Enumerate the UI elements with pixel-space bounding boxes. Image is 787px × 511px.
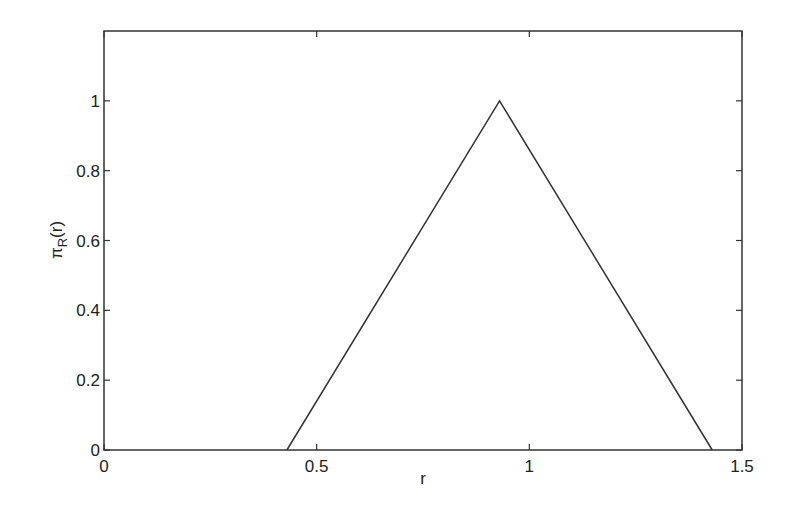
y-tick-label: 0.2 — [76, 371, 100, 390]
y-tick-label: 0.8 — [76, 162, 100, 181]
y-tick-label: 0.6 — [76, 232, 100, 251]
x-tick-label: 0 — [99, 457, 108, 476]
x-tick-label: 0.5 — [305, 457, 329, 476]
data-line — [287, 101, 712, 450]
chart: 00.20.40.60.81 00.511.5 r πR(r) — [0, 0, 787, 511]
x-axis-ticks: 00.511.5 — [99, 31, 754, 476]
x-axis-label: r — [420, 469, 426, 488]
y-axis-label: πR(r) — [47, 221, 70, 259]
y-tick-label: 1 — [91, 92, 100, 111]
y-axis-ticks: 00.20.40.60.81 — [76, 92, 742, 460]
y-tick-label: 0.4 — [76, 301, 100, 320]
plot-frame — [104, 31, 742, 450]
svg-text:πR(r): πR(r) — [47, 221, 70, 259]
x-tick-label: 1.5 — [730, 457, 754, 476]
x-tick-label: 1 — [525, 457, 534, 476]
